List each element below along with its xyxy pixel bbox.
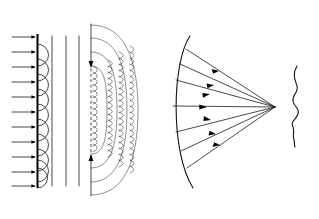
- wave-diagram-svg: [0, 0, 319, 219]
- figure-root: [0, 0, 319, 219]
